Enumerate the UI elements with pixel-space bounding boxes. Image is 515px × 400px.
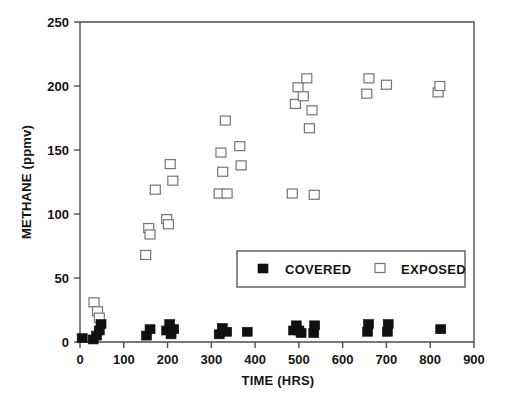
data-point-exposed	[435, 82, 445, 91]
data-point-exposed	[163, 220, 173, 229]
data-point-covered	[222, 327, 232, 336]
y-tick-label: 0	[62, 335, 69, 350]
y-tick-label: 100	[47, 207, 69, 222]
data-point-exposed	[307, 106, 317, 115]
data-point-covered	[169, 325, 179, 334]
data-point-exposed	[302, 74, 312, 83]
data-point-exposed	[364, 74, 374, 83]
legend-marker-covered	[258, 264, 268, 273]
data-point-exposed	[150, 185, 160, 194]
legend-marker-exposed	[375, 264, 385, 273]
data-point-exposed	[168, 176, 178, 185]
x-tick-label: 700	[376, 352, 398, 367]
data-point-exposed	[298, 92, 308, 101]
y-axis-title: METHANE (ppmv)	[19, 125, 34, 239]
data-point-exposed	[287, 189, 297, 198]
x-tick-label: 500	[288, 352, 310, 367]
data-point-exposed	[236, 161, 246, 170]
x-tick-label: 400	[244, 352, 266, 367]
x-axis-title: TIME (HRS)	[242, 373, 315, 388]
data-point-covered	[96, 320, 106, 329]
data-point-exposed	[293, 83, 303, 92]
x-tick-label: 200	[157, 352, 179, 367]
y-tick-label: 150	[47, 143, 69, 158]
y-tick-label: 200	[47, 79, 69, 94]
y-tick-label: 50	[55, 271, 69, 286]
x-tick-label: 800	[419, 352, 441, 367]
x-tick-label: 100	[113, 352, 135, 367]
data-point-covered	[296, 329, 306, 338]
y-tick-label: 250	[47, 15, 69, 30]
x-tick-label: 900	[463, 352, 485, 367]
data-point-exposed	[381, 80, 391, 89]
data-point-exposed	[145, 230, 155, 239]
data-point-exposed	[141, 250, 151, 259]
x-tick-label: 0	[76, 352, 83, 367]
data-point-exposed	[362, 89, 372, 98]
data-point-covered	[77, 334, 87, 343]
legend-label-covered: COVERED	[285, 262, 351, 277]
data-point-exposed	[309, 190, 319, 199]
x-tick-label: 300	[200, 352, 222, 367]
data-point-exposed	[165, 160, 175, 169]
data-point-exposed	[235, 142, 245, 151]
x-tick-label: 600	[332, 352, 354, 367]
data-point-exposed	[304, 124, 314, 133]
methane-vs-time-scatter-chart: 050100150200250 010020030040050060070080…	[0, 0, 515, 400]
data-point-exposed	[216, 148, 226, 157]
data-point-exposed	[218, 167, 228, 176]
data-point-exposed	[222, 189, 232, 198]
data-point-covered	[310, 321, 320, 330]
data-point-covered	[363, 320, 373, 329]
data-point-covered	[436, 325, 446, 334]
data-point-exposed	[89, 298, 99, 307]
data-point-covered	[383, 320, 393, 329]
legend-label-exposed: EXPOSED	[401, 262, 466, 277]
data-point-covered	[145, 325, 155, 334]
data-point-exposed	[220, 116, 230, 125]
chart-legend: COVERED EXPOSED	[237, 251, 466, 287]
data-point-covered	[242, 327, 252, 336]
